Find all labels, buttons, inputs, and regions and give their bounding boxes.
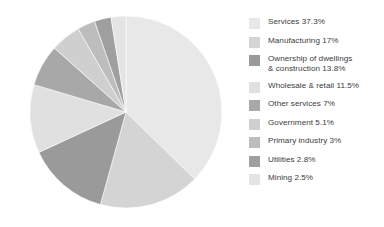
- legend-swatch-icon: [249, 137, 260, 148]
- legend-item-label: Manufacturing 17%: [268, 36, 339, 46]
- legend-swatch-icon: [249, 119, 260, 130]
- legend-item[interactable]: Wholesale & retail 11.5%: [249, 81, 382, 93]
- legend-item-label: Mining 2.5%: [268, 173, 313, 183]
- legend-swatch-icon: [249, 82, 260, 93]
- legend-swatch-icon: [249, 156, 260, 167]
- legend-swatch-icon: [249, 100, 260, 111]
- pie-chart-svg: [28, 14, 224, 210]
- legend-item[interactable]: Manufacturing 17%: [249, 36, 382, 48]
- legend-swatch-icon: [249, 18, 260, 29]
- legend-item[interactable]: Government 5.1%: [249, 118, 382, 130]
- legend-item-label: Other services 7%: [268, 99, 335, 109]
- legend-swatch-icon: [249, 174, 260, 185]
- legend-swatch-icon: [249, 37, 260, 48]
- pie-chart-figure: Services 37.3%Manufacturing 17%Ownership…: [0, 0, 384, 227]
- legend-item-label: Services 37.3%: [268, 17, 325, 27]
- legend-item[interactable]: Primary industry 3%: [249, 136, 382, 148]
- legend-item-label: Government 5.1%: [268, 118, 334, 128]
- pie-slice-group: [30, 16, 222, 208]
- legend-item-label: Utilities 2.8%: [268, 155, 315, 165]
- pie-chart-plot-area: [28, 14, 224, 210]
- legend-item-label: Primary industry 3%: [268, 136, 341, 146]
- legend-item[interactable]: Services 37.3%: [249, 17, 382, 29]
- legend-item-label: Wholesale & retail 11.5%: [268, 81, 359, 91]
- legend-swatch-icon: [249, 55, 260, 66]
- legend-item[interactable]: Ownership of dwellings & construction 13…: [249, 54, 382, 74]
- chart-legend: Services 37.3%Manufacturing 17%Ownership…: [249, 17, 382, 192]
- legend-item[interactable]: Utilities 2.8%: [249, 155, 382, 167]
- legend-item-label: Ownership of dwellings & construction 13…: [268, 54, 352, 74]
- legend-item[interactable]: Other services 7%: [249, 99, 382, 111]
- legend-item[interactable]: Mining 2.5%: [249, 173, 382, 185]
